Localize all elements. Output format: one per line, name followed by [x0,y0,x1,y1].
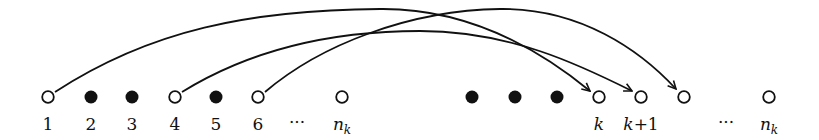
node-label-nk_left: nk [333,114,351,137]
open-node-nk_right [763,91,775,103]
open-node-n1 [42,91,54,103]
open-node-k [593,91,605,103]
arcs [55,9,676,92]
labels: 123456nkkk+1nk······ [43,112,779,137]
open-node-k1 [635,91,647,103]
open-node-nk_left [336,91,348,103]
node-label-n2: 2 [86,114,97,134]
arc-6-to-k2 [265,9,676,92]
nodes [42,91,775,104]
arc-1-to-k [55,9,590,92]
node-label-n3: 3 [127,114,138,134]
node-label-n4: 4 [170,114,181,134]
ellipsis-1: ··· [718,112,734,132]
filled-node-f1 [466,91,479,104]
node-label-n1: 1 [43,114,54,134]
ellipsis-0: ··· [289,112,305,132]
filled-node-f2 [509,91,522,104]
filled-node-n5 [210,91,223,104]
open-node-n6 [252,91,264,103]
open-node-n4 [169,91,181,103]
node-label-nk_right: nk [760,114,778,137]
arc-4-to-k1 [182,31,632,92]
node-label-k1: k+1 [623,114,658,134]
node-label-k: k [594,114,604,134]
node-label-n6: 6 [253,114,264,134]
mapping-diagram: 123456nkkk+1nk······ [0,0,819,140]
filled-node-n3 [126,91,139,104]
filled-node-f3 [551,91,564,104]
open-node-k2 [678,91,690,103]
node-label-n5: 5 [211,114,222,134]
filled-node-n2 [85,91,98,104]
